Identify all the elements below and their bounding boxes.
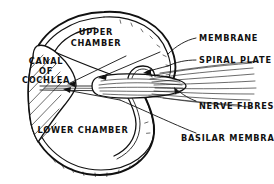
- label-membrane: MEMBRANE: [199, 33, 258, 43]
- label-spiral-plate: SPIRAL PLATE: [199, 55, 272, 65]
- label-nerve-fibres: NERVE FIBRES: [199, 101, 274, 111]
- label-upper-chamber-line1: UPPER: [79, 27, 113, 37]
- label-upper-chamber-line2: CHAMBER: [71, 38, 122, 48]
- label-canal-line1: CANAL: [29, 56, 64, 66]
- label-lower-chamber: LOWER CHAMBER: [38, 125, 129, 135]
- label-canal-line3: COCHLEA: [22, 75, 70, 85]
- cochlea-cross-section-figure: UPPER CHAMBER CANAL OF COCHLEA LOWER CHA…: [0, 0, 274, 184]
- label-basilar-membrane: BASILAR MEMBRANE: [181, 133, 274, 143]
- diagram-canvas: UPPER CHAMBER CANAL OF COCHLEA LOWER CHA…: [0, 0, 274, 184]
